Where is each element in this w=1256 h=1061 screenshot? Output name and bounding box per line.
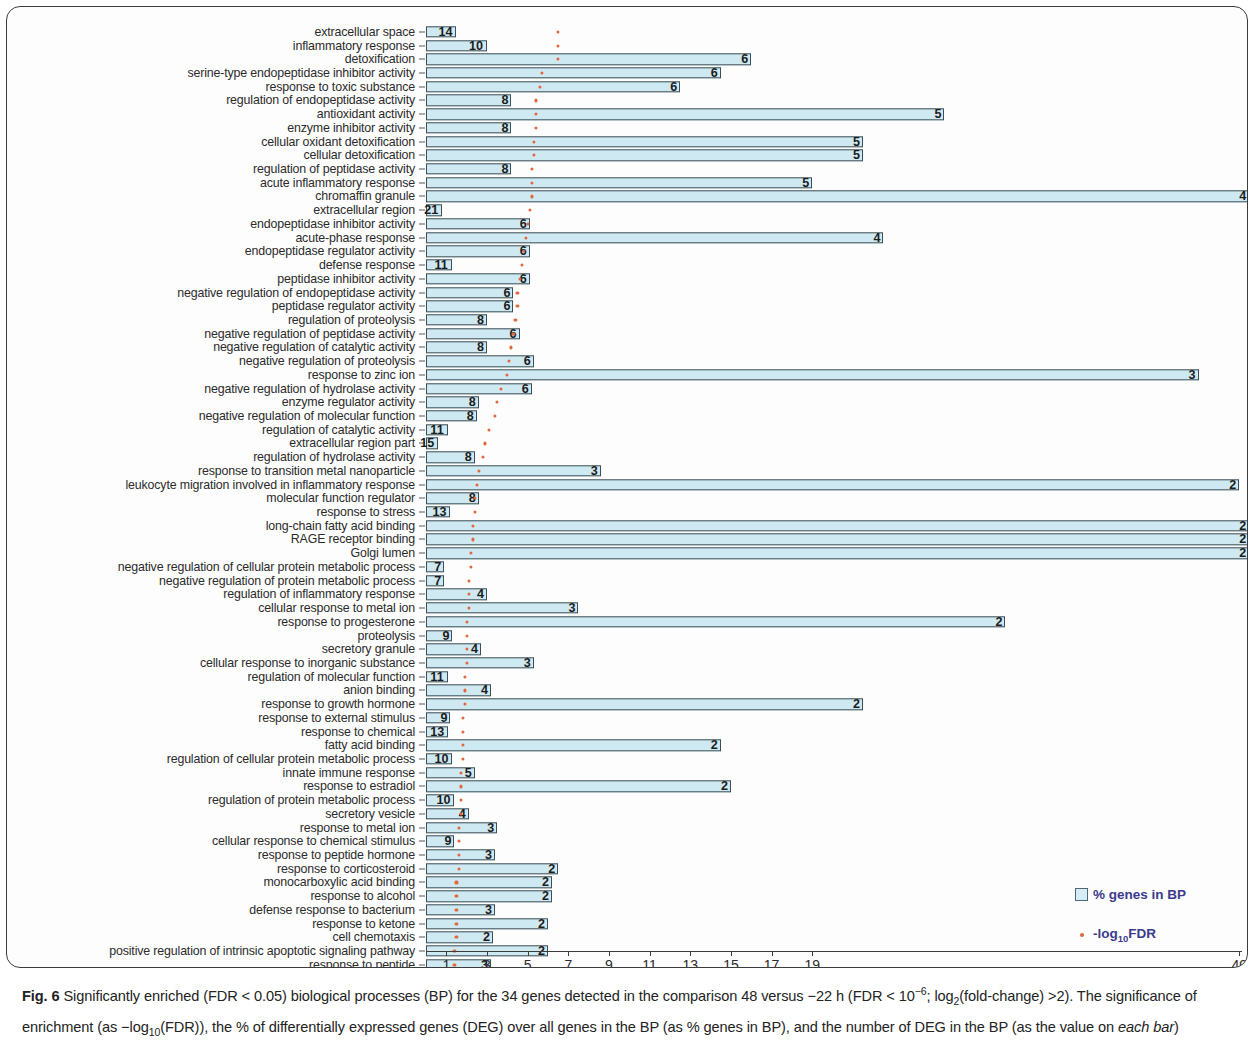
chart-row: Golgi lumen2 [7, 546, 1247, 560]
chart-row: regulation of hydrolase activity8 [7, 450, 1247, 464]
category-label: regulation of cellular protein metabolic… [167, 753, 415, 766]
category-tick [419, 731, 425, 732]
category-tick [419, 690, 425, 691]
fdr-point [528, 209, 531, 212]
category-label: cellular response to inorganic substance [200, 656, 415, 669]
chart-row: response to growth hormone2 [7, 697, 1247, 711]
category-label: negative regulation of cellular protein … [118, 560, 415, 573]
fdr-point [465, 634, 468, 637]
bar [426, 616, 1005, 627]
chart-row: extracellular space14 [7, 25, 1247, 39]
bar-value-label: 8 [467, 409, 474, 423]
chart-row: peptidase regulator activity6 [7, 299, 1247, 313]
chart-row: monocarboxylic acid binding2 [7, 876, 1247, 890]
bar-value-label: 4 [477, 587, 484, 601]
x-axis-tick-label: 13 [682, 957, 698, 968]
bar [426, 534, 1248, 545]
category-tick [419, 566, 425, 567]
bar-value-label: 8 [501, 162, 508, 176]
category-label: Golgi lumen [351, 547, 415, 560]
bar-value-label: 10 [434, 752, 448, 766]
category-label: negative regulation of protein metabolic… [159, 574, 415, 587]
category-tick [419, 292, 425, 293]
bar-value-label: 13 [430, 725, 444, 739]
bar-value-label: 4 [481, 683, 488, 697]
category-tick [419, 621, 425, 622]
chart-row: response to external stimulus9 [7, 711, 1247, 725]
figure-frame: extracellular space14inflammatory respon… [6, 6, 1248, 968]
chart-row: negative regulation of cellular protein … [7, 560, 1247, 574]
category-label: monocarboxylic acid binding [263, 876, 415, 889]
x-axis-tick-label: 19 [804, 957, 820, 968]
category-tick [419, 786, 425, 787]
fdr-point [457, 840, 460, 843]
chart-row: fatty acid binding2 [7, 738, 1247, 752]
category-label: antioxidant activity [317, 108, 415, 121]
chart-row: chromaffin granule4 [7, 190, 1247, 204]
bar [426, 108, 944, 119]
category-label: regulation of peptidase activity [253, 163, 415, 176]
category-label: response to alcohol [310, 890, 415, 903]
category-tick [419, 347, 425, 348]
bar-value-label: 13 [432, 505, 446, 519]
category-tick [419, 525, 425, 526]
fdr-point [487, 428, 490, 431]
bar-value-label: 2 [1239, 546, 1246, 560]
category-tick [419, 498, 425, 499]
category-label: response to ketone [312, 917, 415, 930]
bar-value-label: 2 [483, 930, 490, 944]
category-tick [419, 237, 425, 238]
bar [426, 548, 1248, 559]
chart-legend: % genes in BP -log10FDR [1075, 887, 1245, 968]
bar-value-label: 8 [501, 121, 508, 135]
category-label: peptidase inhibitor activity [277, 272, 415, 285]
chart-row: endopeptidase regulator activity6 [7, 245, 1247, 259]
bar [426, 369, 1199, 380]
bar [426, 246, 530, 257]
category-label: peptidase regulator activity [272, 300, 415, 313]
x-axis-tick-label: 5 [524, 957, 532, 968]
category-label: positive regulation of intrinsic apoptot… [109, 945, 415, 958]
bar-value-label: 8 [477, 313, 484, 327]
legend-dot-icon [1075, 928, 1088, 941]
bar [426, 602, 578, 613]
x-axis-tick-label: 3 [483, 957, 491, 968]
chart-row: detoxification6 [7, 52, 1247, 66]
bar-value-label: 6 [524, 354, 531, 368]
category-label: response to zinc ion [308, 368, 415, 381]
fdr-point [557, 30, 560, 33]
category-label: RAGE receptor binding [291, 533, 415, 546]
chart-row: inflammatory response10 [7, 39, 1247, 53]
category-tick [419, 539, 425, 540]
bar [426, 657, 534, 668]
category-tick [419, 649, 425, 650]
chart-row: response to estradiol2 [7, 780, 1247, 794]
category-tick [419, 127, 425, 128]
bar [426, 863, 558, 874]
category-label: extracellular region [313, 204, 415, 217]
category-tick [419, 457, 425, 458]
bar-value-label: 4 [873, 231, 880, 245]
fdr-point [473, 511, 476, 514]
chart-row: acute inflammatory response5 [7, 176, 1247, 190]
category-tick [419, 882, 425, 883]
category-label: cell chemotaxis [333, 931, 415, 944]
chart-row: response to progesterone2 [7, 615, 1247, 629]
fdr-point [516, 291, 519, 294]
chart-plot-area: extracellular space14inflammatory respon… [7, 7, 1247, 967]
chart-row: extracellular region21 [7, 203, 1247, 217]
category-label: response to peptide hormone [258, 849, 415, 862]
category-tick [419, 470, 425, 471]
category-label: response to external stimulus [258, 711, 415, 724]
chart-row: cellular detoxification5 [7, 148, 1247, 162]
category-tick [419, 662, 425, 663]
category-tick [419, 45, 425, 46]
category-label: molecular function regulator [266, 492, 415, 505]
category-tick [419, 772, 425, 773]
category-tick [419, 759, 425, 760]
bar [426, 918, 548, 929]
chart-row: response to peptide hormone3 [7, 848, 1247, 862]
category-tick [419, 59, 425, 60]
chart-row: defense response11 [7, 258, 1247, 272]
fdr-point [483, 442, 486, 445]
